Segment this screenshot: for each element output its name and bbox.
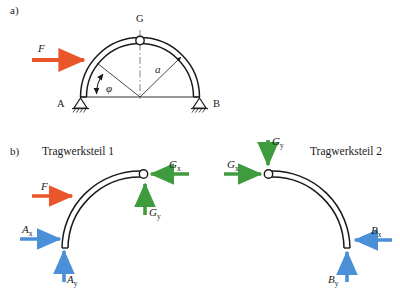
hinge-g [136, 36, 144, 44]
part2-by-label: By [328, 273, 339, 288]
part1-ay-label: Ay [66, 273, 78, 288]
support-a [72, 98, 89, 113]
force-f-label: F [37, 42, 45, 54]
part1-gx-label: Gx [169, 158, 181, 173]
part1-gy-label: Gy [149, 206, 161, 221]
part2-title: Tragwerksteil 2 [310, 145, 382, 158]
node-a-label: A [57, 98, 65, 109]
node-b-label: B [213, 98, 220, 109]
part2-bx-label: Bx [371, 224, 382, 239]
part1-member [62, 171, 141, 248]
radius-line [140, 57, 181, 97]
angle-ray [97, 63, 140, 97]
radius-label: a [155, 63, 161, 75]
statics-figure: a) G a φ F [0, 0, 400, 292]
panel-a: a) G a φ F [10, 4, 220, 113]
part2-gx-label: Gx [227, 158, 239, 173]
part1-hinge-g [139, 170, 147, 178]
part1-force-f-label: F [40, 180, 48, 192]
part2-gy-label: Gy [272, 135, 284, 150]
panel-b-label: b) [10, 145, 20, 158]
part1-title: Tragwerksteil 1 [42, 145, 114, 158]
part2-hinge-g [264, 170, 272, 178]
part2-member [271, 171, 350, 248]
panel-a-label: a) [10, 4, 19, 17]
part1-ax-label: Ax [21, 223, 33, 238]
support-b [191, 98, 208, 113]
hinge-g-label: G [136, 13, 144, 24]
panel-b: b) Tragwerksteil 1 F Ax Ay Gx Gy Tragwer… [10, 135, 392, 288]
angle-label: φ [106, 82, 112, 94]
angle-arc [96, 74, 103, 94]
figure-canvas: a) G a φ F [0, 0, 400, 292]
